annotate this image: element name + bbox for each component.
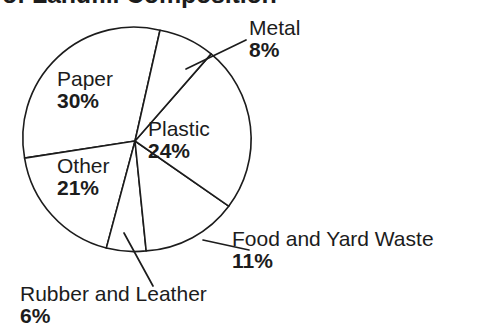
slice-label-rubber-and-leather: Rubber and Leather 6% bbox=[20, 283, 207, 327]
slice-label-other-value: 21% bbox=[57, 177, 110, 199]
slice-label-metal: Metal 8% bbox=[249, 17, 300, 61]
slice-label-paper-name: Paper bbox=[57, 68, 113, 90]
slice-label-plastic: Plastic 24% bbox=[148, 118, 210, 162]
slice-label-metal-name: Metal bbox=[249, 17, 300, 39]
slice-label-other: Other 21% bbox=[57, 155, 110, 199]
slice-label-food-and-yard-waste: Food and Yard Waste 11% bbox=[232, 228, 434, 272]
pie-chart-figure: of Landfill Composition Paper 30% Plasti… bbox=[0, 0, 478, 334]
slice-label-paper: Paper 30% bbox=[57, 68, 113, 112]
slice-label-rubber-and-leather-name: Rubber and Leather bbox=[20, 283, 207, 305]
slice-label-other-name: Other bbox=[57, 155, 110, 177]
slice-label-plastic-name: Plastic bbox=[148, 118, 210, 140]
slice-label-food-and-yard-waste-value: 11% bbox=[232, 250, 434, 272]
slice-label-paper-value: 30% bbox=[57, 90, 113, 112]
slice-label-food-and-yard-waste-name: Food and Yard Waste bbox=[232, 228, 434, 250]
slice-label-plastic-value: 24% bbox=[148, 140, 210, 162]
slice-label-rubber-and-leather-value: 6% bbox=[20, 305, 207, 327]
slice-label-metal-value: 8% bbox=[249, 39, 300, 61]
